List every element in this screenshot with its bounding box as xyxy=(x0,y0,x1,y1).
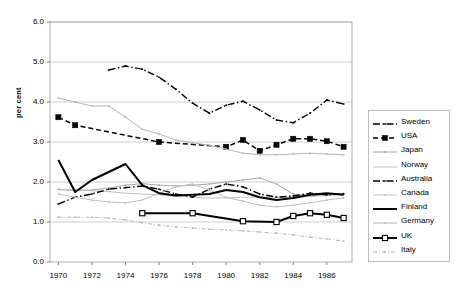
data-point xyxy=(309,112,311,114)
data-point xyxy=(225,148,227,150)
data-point xyxy=(274,219,279,224)
data-point xyxy=(158,184,160,186)
legend-item-norway[interactable]: Norway xyxy=(372,158,445,172)
data-point xyxy=(192,142,194,144)
y-tick-label: 5.0 xyxy=(16,57,44,66)
data-point xyxy=(324,139,329,144)
x-tick-label: 1984 xyxy=(279,271,307,280)
data-point xyxy=(291,213,296,218)
legend-swatch-icon xyxy=(372,230,398,242)
data-point xyxy=(74,216,76,218)
data-point xyxy=(91,199,93,201)
data-point xyxy=(58,203,60,205)
data-point xyxy=(276,196,278,198)
chart-legend: SwedenUSAJapanNorwayAustraliaCanadaFinla… xyxy=(368,110,450,262)
data-point xyxy=(56,115,61,120)
data-point xyxy=(276,154,278,156)
legend-swatch-icon xyxy=(372,215,398,227)
data-point xyxy=(259,204,261,206)
data-point xyxy=(259,231,261,233)
data-point xyxy=(292,234,294,236)
data-point xyxy=(326,99,328,101)
data-point xyxy=(74,101,76,103)
data-point xyxy=(209,228,211,230)
legend-item-usa[interactable]: USA xyxy=(372,129,445,143)
legend-item-canada[interactable]: Canada xyxy=(372,186,445,200)
data-point xyxy=(242,230,244,232)
data-point xyxy=(141,68,143,70)
data-point xyxy=(242,200,244,202)
data-point xyxy=(225,196,227,198)
data-point xyxy=(125,65,127,67)
legend-item-uk[interactable]: UK xyxy=(372,229,445,243)
legend-label: Japan xyxy=(401,146,423,154)
data-point xyxy=(158,133,160,135)
legend-swatch-icon xyxy=(372,144,398,156)
y-tick-label: 1.0 xyxy=(16,217,44,226)
data-point xyxy=(309,202,311,204)
data-point xyxy=(91,105,93,107)
data-point xyxy=(326,238,328,240)
y-tick-label: 0.0 xyxy=(16,257,44,266)
data-point xyxy=(276,183,278,185)
legend-item-germany[interactable]: Germany xyxy=(372,214,445,228)
data-point xyxy=(240,219,245,224)
chart-figure: per cent 0.01.02.03.04.05.06.0 197019721… xyxy=(0,0,460,304)
data-point xyxy=(292,122,294,124)
data-point xyxy=(225,104,227,106)
data-point xyxy=(324,212,329,217)
data-point xyxy=(209,189,211,191)
data-point xyxy=(292,195,294,197)
data-point xyxy=(175,88,177,90)
data-point xyxy=(175,226,177,228)
data-point xyxy=(309,236,311,238)
data-point xyxy=(291,136,296,141)
data-point xyxy=(125,202,127,204)
y-tick-label: 6.0 xyxy=(16,17,44,26)
data-point xyxy=(91,193,93,195)
data-point xyxy=(192,183,194,185)
data-point xyxy=(209,183,211,185)
legend-item-finland[interactable]: Finland xyxy=(372,200,445,214)
data-point xyxy=(276,232,278,234)
data-point xyxy=(175,139,177,141)
data-point xyxy=(190,211,195,216)
data-point xyxy=(192,102,194,104)
data-point xyxy=(58,216,60,218)
legend-swatch-icon xyxy=(372,116,398,128)
data-point xyxy=(240,137,245,142)
data-point xyxy=(125,219,127,221)
x-tick-label: 1980 xyxy=(212,271,240,280)
data-point xyxy=(73,123,78,128)
data-point xyxy=(257,148,262,153)
data-point xyxy=(326,199,328,201)
data-point xyxy=(158,224,160,226)
data-point xyxy=(158,76,160,78)
legend-label: Finland xyxy=(401,203,427,211)
legend-item-italy[interactable]: Italy xyxy=(372,243,445,257)
data-point xyxy=(108,201,110,203)
data-point xyxy=(326,153,328,155)
legend-label: Germany xyxy=(401,217,434,225)
data-point xyxy=(140,211,145,216)
y-tick-label: 3.0 xyxy=(16,137,44,146)
x-tick-label: 1976 xyxy=(145,271,173,280)
data-point xyxy=(242,186,244,188)
legend-label: Canada xyxy=(401,189,429,197)
y-tick-label: 4.0 xyxy=(16,97,44,106)
data-point xyxy=(292,204,294,206)
data-point xyxy=(108,69,110,71)
data-point xyxy=(343,154,345,156)
data-point xyxy=(343,240,345,242)
data-point xyxy=(242,152,244,154)
data-point xyxy=(225,181,227,183)
x-tick-label: 1986 xyxy=(313,271,341,280)
legend-swatch-icon xyxy=(372,159,398,171)
legend-item-sweden[interactable]: Sweden xyxy=(372,115,445,129)
x-tick-label: 1970 xyxy=(44,271,72,280)
data-point xyxy=(108,188,110,190)
data-point xyxy=(307,211,312,216)
data-point xyxy=(141,199,143,201)
legend-item-australia[interactable]: Australia xyxy=(372,172,445,186)
legend-item-japan[interactable]: Japan xyxy=(372,143,445,157)
